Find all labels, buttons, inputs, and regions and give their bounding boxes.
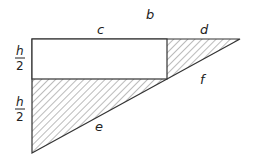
label-e: e bbox=[95, 119, 103, 134]
fraction-top-numerator: h bbox=[16, 44, 24, 58]
label-c: c bbox=[97, 22, 104, 37]
triangle-diagram: b c d f e h 2 h 2 bbox=[0, 0, 253, 162]
label-b: b bbox=[146, 7, 154, 22]
label-f: f bbox=[200, 72, 207, 87]
fraction-h-over-2-top: h 2 bbox=[15, 44, 25, 73]
fraction-bottom-denominator: 2 bbox=[16, 110, 24, 124]
fraction-bottom-numerator: h bbox=[16, 95, 24, 109]
fraction-h-over-2-bottom: h 2 bbox=[15, 95, 25, 124]
fraction-top-denominator: 2 bbox=[16, 59, 24, 73]
label-d: d bbox=[200, 22, 209, 37]
inner-rectangle bbox=[32, 39, 167, 79]
